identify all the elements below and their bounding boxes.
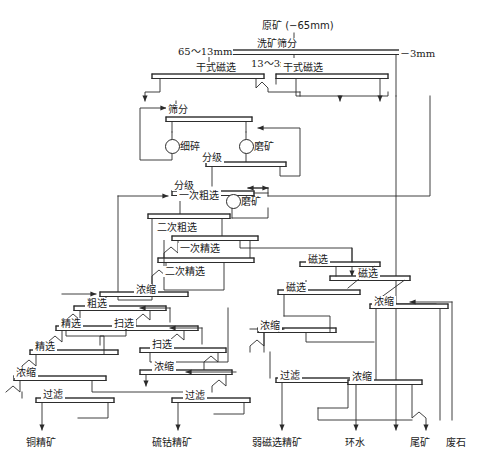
product-label-waste-rock: 废石 [446,437,466,448]
unit-label-thicken-t: 浓缩 [372,296,396,307]
unit-label-mag-2: 磁选 [306,254,330,265]
unit-label-fine-crush: 细碎 [180,141,200,152]
unit-label-filter-cu: 过滤 [41,389,65,400]
grinding-mill-2-symbol [226,194,241,209]
unit-label-mag-3: 磁选 [356,268,380,279]
unit-label-rough-2: 二次粗选 [155,222,199,233]
product-label-copper: 铜精矿 [26,437,56,448]
size-label-65-13: 65～13mm [177,46,233,57]
unit-label-rough-1: 一次粗选 [177,190,221,201]
unit-label-filter-s: 过滤 [183,390,207,401]
unit-label-rough-cu: 粗选 [85,298,109,309]
unit-label-thicken-w: 浓缩 [350,371,374,382]
unit-label-mag-1: 磁选 [284,282,308,293]
feed-label: 原矿 (−65mm) [262,20,334,31]
line-tailings [412,385,426,431]
product-label-weak-mag: 弱磁选精矿 [252,437,302,448]
unit-label-filter-fe: 过滤 [278,370,302,381]
unit-label-thicken-fe: 浓缩 [258,320,282,331]
unit-label-thicken-a: 浓缩 [134,284,158,295]
unit-label-clean-2: 二次精选 [163,266,207,277]
unit-label-grinding-1: 磨矿 [254,141,274,152]
fine-crusher-symbol [165,139,180,154]
flowsheet-lines [0,0,482,464]
unit-label-screening: 筛分 [166,104,190,115]
product-label-tailings: 尾矿 [410,437,430,448]
unit-label-clean-cu-1: 精选 [59,318,83,329]
unit-label-washing-screening: 洗矿筛分 [255,38,299,49]
unit-label-scav-2: 扫选 [150,339,174,350]
size-label-minus-3: －3mm [399,48,436,59]
unit-label-clean-1: 一次精选 [178,243,222,254]
unit-label-thicken-s: 浓缩 [152,361,176,372]
unit-label-dry-mag-2: 干式磁选 [281,62,325,73]
product-label-return-water: 环水 [345,437,365,448]
unit-label-classify-1: 分级 [200,152,224,163]
flowsheet-diagram: 原矿 (−65mm) 洗矿筛分 65～13mm 13～3mm －3mm 干式磁选… [0,0,482,464]
unit-label-clean-cu-2: 精选 [33,341,57,352]
grinding-mill-1-symbol [239,139,254,154]
product-label-sulfur-cobalt: 硫钴精矿 [152,437,192,448]
unit-label-scav-1: 扫选 [112,318,136,329]
unit-label-dry-mag-1: 干式磁选 [194,62,238,73]
unit-label-grinding-2: 磨矿 [241,196,261,207]
unit-label-thicken-cu: 浓缩 [14,367,38,378]
